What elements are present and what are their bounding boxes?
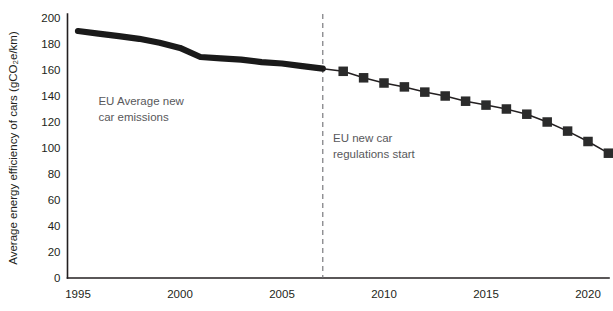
y-axis-tick-label: 80 (48, 168, 61, 180)
y-axis-title: Average energy efficiency of cars (gCO₂e… (7, 31, 19, 265)
data-point-marker (338, 67, 348, 77)
data-point-marker (359, 73, 369, 83)
eu-regulations-label: EU new car (333, 132, 393, 144)
data-point-marker (542, 117, 552, 127)
data-point-marker (379, 78, 389, 88)
y-axis-tick-label: 20 (48, 246, 61, 258)
y-axis-tick-label: 160 (41, 64, 60, 76)
y-axis-tick-label: 120 (41, 116, 60, 128)
x-axis-tick-label: 2020 (575, 288, 601, 300)
x-axis-tick-label: 2000 (167, 288, 193, 300)
eu-average-label: EU Average new (98, 95, 184, 107)
data-point-marker (604, 148, 613, 158)
eu-regulations-label: regulations start (333, 148, 416, 160)
data-point-marker (481, 100, 491, 110)
data-point-marker (440, 91, 450, 101)
chart-container: Average energy efficiency of cars (gCO₂e… (0, 0, 613, 311)
data-point-marker (583, 137, 593, 147)
y-axis-tick-label: 0 (54, 272, 60, 284)
data-point-marker (461, 96, 471, 106)
data-point-marker (420, 87, 430, 97)
x-axis-tick-label: 2015 (473, 288, 499, 300)
energy-efficiency-line-chart: Average energy efficiency of cars (gCO₂e… (0, 0, 613, 311)
x-axis-tick-label: 2010 (371, 288, 397, 300)
x-axis-tick-label: 2005 (269, 288, 295, 300)
y-axis-tick-label: 60 (48, 194, 61, 206)
data-point-marker (400, 82, 410, 92)
data-point-marker (502, 104, 512, 114)
y-axis-tick-label: 100 (41, 142, 60, 154)
y-axis-tick-label: 140 (41, 90, 60, 102)
y-axis-tick-label: 40 (48, 220, 61, 232)
x-axis-tick-label: 1995 (65, 288, 91, 300)
eu-average-label: car emissions (98, 111, 169, 123)
data-point-marker (563, 126, 573, 136)
data-point-marker (522, 109, 532, 119)
y-axis-tick-label: 180 (41, 38, 60, 50)
y-axis-tick-label: 200 (41, 12, 60, 24)
chart-background (0, 0, 613, 311)
